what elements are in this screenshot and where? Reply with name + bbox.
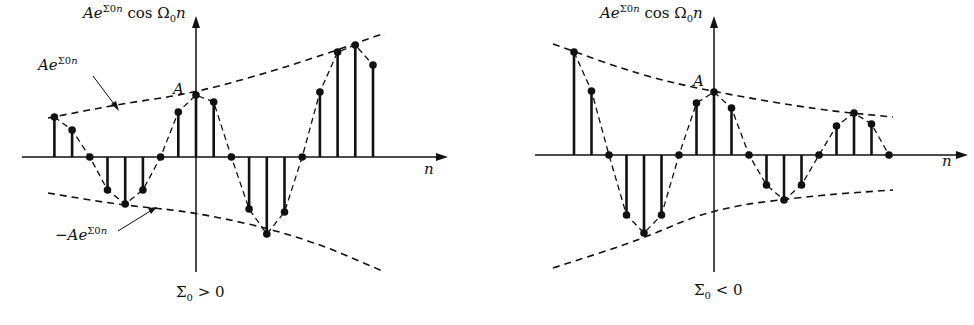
left-caption: Σ0 > 0 xyxy=(176,283,225,303)
right-caption: Σ0 < 0 xyxy=(694,281,743,301)
left-amplitude-label: A xyxy=(173,80,184,98)
left-y-axis-label: AeΣ0n cos Ω0n xyxy=(83,3,186,24)
left-lower-envelope-label: −AeΣ0n xyxy=(55,225,107,244)
right-amplitude-label: A xyxy=(693,72,704,90)
left-x-axis-label: n xyxy=(424,160,434,178)
right-x-axis-label: n xyxy=(942,152,952,170)
left-upper-envelope-label: AeΣ0n xyxy=(38,55,78,74)
right-y-axis-label: AeΣ0n cos Ω0n xyxy=(600,3,703,24)
stem-plots xyxy=(0,0,974,325)
